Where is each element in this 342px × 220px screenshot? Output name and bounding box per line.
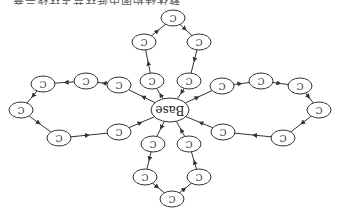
edge-arrow (180, 24, 192, 35)
node-label: C (185, 76, 192, 86)
loop-node-top: C (177, 73, 201, 89)
node-label: C (296, 81, 303, 91)
node-label: C (185, 139, 192, 149)
edge-arrow (157, 88, 163, 98)
loop-node-left: C (47, 130, 71, 146)
edge-arrow (152, 24, 166, 36)
node-label: C (17, 105, 24, 115)
base-node: Base (151, 98, 189, 122)
loop-node-top: C (161, 10, 185, 26)
node-label: C (39, 79, 46, 89)
node-label: C (115, 80, 122, 90)
edge-arrow (29, 116, 51, 132)
loop-node-left: C (107, 77, 131, 93)
edge-arrow (153, 183, 165, 193)
edge-arrow (234, 83, 249, 85)
node-label: C (148, 76, 155, 86)
loop-node-left: C (31, 76, 55, 92)
loop-node-right: C (249, 73, 273, 89)
loop-node-top: C (132, 34, 156, 50)
node-label: C (218, 81, 225, 91)
loop-node-left: C (74, 73, 98, 89)
edge-arrow (146, 50, 151, 73)
node-label: C (115, 127, 122, 137)
edge-arrow (186, 117, 213, 128)
edge-arrow (129, 117, 154, 128)
loop-node-bottom: C (160, 191, 184, 207)
edge-arrow (185, 91, 212, 103)
loop-node-top: C (140, 73, 164, 89)
edge-arrow (71, 133, 107, 137)
edge-arrow (27, 91, 37, 103)
edge-arrow (235, 133, 271, 137)
node-label: C (195, 37, 202, 47)
loop-node-bottom: C (141, 136, 165, 152)
edge-arrow (191, 152, 196, 169)
loop-node-left: C (9, 102, 33, 118)
node-label: C (140, 37, 147, 47)
loop-node-top: C (187, 34, 211, 50)
node-label: C (219, 127, 226, 137)
loop-node-right: C (271, 130, 295, 146)
edge-arrow (291, 116, 311, 132)
edge-arrow (180, 183, 192, 193)
node-label: C (149, 139, 156, 149)
loop-node-bottom: C (177, 136, 201, 152)
node-label: C (315, 105, 322, 115)
base-label: Base (155, 103, 184, 117)
edge-arrow (306, 93, 314, 103)
node-label: C (279, 133, 286, 143)
edge-arrow (157, 121, 164, 136)
loop-node-bottom: C (187, 169, 211, 185)
loop-node-right: C (210, 78, 234, 94)
nodes: CCCCCCCCCCCCCCCCCCCCCCBase (9, 10, 331, 207)
node-label: C (195, 172, 202, 182)
edge-arrow (191, 50, 197, 73)
edge-arrow (129, 90, 155, 103)
node-label: C (55, 133, 62, 143)
node-label: C (141, 172, 148, 182)
loop-node-right: C (288, 78, 312, 94)
edge-arrow (176, 121, 184, 136)
loop-node-left: C (107, 124, 131, 140)
loop-diagram: CCCCCCCCCCCCCCCCCCCCCCBase (0, 0, 342, 220)
edge-arrow (177, 88, 184, 99)
node-label: C (257, 76, 264, 86)
node-label: C (82, 76, 89, 86)
edge-arrow (147, 152, 151, 169)
loop-node-bottom: C (133, 169, 157, 185)
edge-arrow (273, 83, 288, 85)
node-label: C (168, 194, 175, 204)
loop-node-right: C (211, 124, 235, 140)
node-label: C (169, 13, 176, 23)
edge-arrow (55, 82, 74, 83)
loop-node-right: C (307, 102, 331, 118)
edge-arrow (98, 82, 107, 83)
